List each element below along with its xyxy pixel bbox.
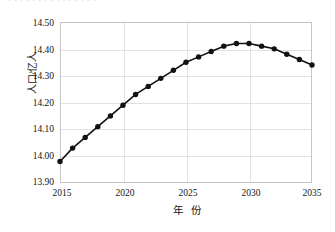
x-tick-label: 2025 bbox=[179, 189, 198, 199]
y-axis-title: 人口/亿人 bbox=[28, 38, 38, 108]
x-tick-label: 2035 bbox=[303, 189, 322, 199]
y-tick-label: 14.20 bbox=[0, 99, 54, 109]
x-tick-label: 2030 bbox=[242, 189, 261, 199]
population-line-chart-figure: · · · · · · · · · · · · · · · 14.50 14.4… bbox=[0, 0, 335, 232]
x-tick-label: 2020 bbox=[116, 189, 135, 199]
y-tick-label: 13.90 bbox=[0, 178, 54, 188]
x-tick-label: 2015 bbox=[53, 189, 72, 199]
y-tick-label: 14.50 bbox=[0, 19, 54, 29]
y-tick-label: 14.00 bbox=[0, 152, 54, 162]
x-axis-title: 年 份 bbox=[0, 206, 335, 217]
y-axis-tick-labels: 14.50 14.40 14.30 14.20 14.10 14.00 13.9… bbox=[0, 0, 335, 232]
y-tick-label: 14.10 bbox=[0, 125, 54, 135]
